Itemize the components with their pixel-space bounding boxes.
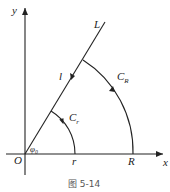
large-radius-label: R: [127, 155, 135, 167]
ray-l: [25, 22, 105, 154]
x-axis-label: x: [162, 156, 168, 168]
figure-caption: 图 5-14: [68, 179, 101, 189]
arc-c-R: [83, 60, 133, 154]
contour-diagram: y x O L l φ₀ r R Cr CR 图 5-14: [0, 0, 170, 192]
x-axis-arrow-icon: [156, 151, 163, 157]
large-arc-label: CR: [117, 70, 129, 85]
y-axis-label: y: [11, 4, 17, 16]
segment-label: l: [59, 70, 62, 82]
arc-cr-arrow-icon: [59, 118, 65, 125]
ray-label: L: [93, 18, 100, 30]
angle-label: φ₀: [30, 144, 38, 154]
small-arc-label: Cr: [69, 111, 79, 126]
small-radius-label: r: [72, 155, 77, 167]
origin-label: O: [14, 154, 22, 166]
y-axis-arrow-icon: [22, 8, 28, 15]
